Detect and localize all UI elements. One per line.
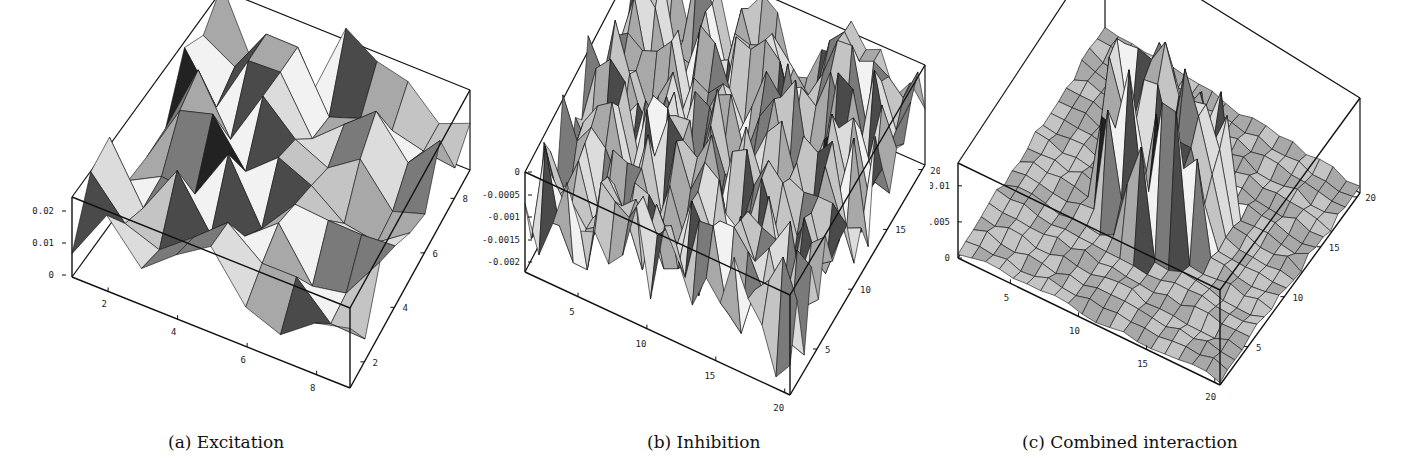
panel-inhibition: 510152051015200-0.0005-0.001-0.0015-0.00…	[470, 0, 940, 475]
svg-text:10: 10	[860, 285, 871, 295]
panel-excitation: 2468246800.010.02 (a) Excitation	[0, 0, 480, 475]
svg-text:0: 0	[945, 253, 950, 263]
svg-text:8: 8	[310, 383, 315, 393]
svg-text:0.01: 0.01	[930, 181, 950, 191]
svg-text:-0.0015: -0.0015	[482, 235, 520, 245]
svg-text:10: 10	[1292, 293, 1303, 303]
svg-text:6: 6	[432, 249, 437, 259]
svg-text:15: 15	[1329, 243, 1340, 253]
svg-text:4: 4	[171, 327, 176, 337]
svg-text:-0.0005: -0.0005	[482, 190, 520, 200]
svg-text:5: 5	[1004, 293, 1009, 303]
svg-text:15: 15	[895, 225, 906, 235]
svg-text:2: 2	[101, 299, 106, 309]
svg-text:4: 4	[402, 303, 407, 313]
svg-text:15: 15	[704, 371, 715, 381]
caption-inhibition: (b) Inhibition	[647, 432, 760, 452]
svg-text:-0.001: -0.001	[487, 212, 520, 222]
svg-text:0: 0	[515, 167, 520, 177]
svg-text:6: 6	[240, 355, 245, 365]
svg-text:5: 5	[1256, 343, 1261, 353]
combined-surface-plot: 5101520510152000.0050.01	[930, 0, 1401, 420]
caption-combined: (c) Combined interaction	[1022, 432, 1238, 452]
svg-text:0.02: 0.02	[32, 206, 54, 216]
svg-text:0.005: 0.005	[930, 217, 950, 227]
svg-text:10: 10	[635, 339, 646, 349]
panel-combined: 5101520510152000.0050.01 (c) Combined in…	[930, 0, 1401, 475]
svg-text:20: 20	[1205, 392, 1216, 402]
excitation-surface-plot: 2468246800.010.02	[0, 0, 480, 420]
svg-text:20: 20	[1365, 193, 1376, 203]
svg-text:20: 20	[773, 403, 784, 413]
svg-text:0.01: 0.01	[32, 238, 54, 248]
inhibition-surface-plot: 510152051015200-0.0005-0.001-0.0015-0.00…	[470, 0, 940, 420]
svg-text:15: 15	[1137, 359, 1148, 369]
svg-text:8: 8	[462, 194, 467, 204]
caption-excitation: (a) Excitation	[168, 432, 284, 452]
svg-text:0: 0	[49, 270, 54, 280]
svg-text:5: 5	[825, 345, 830, 355]
svg-text:-0.002: -0.002	[487, 257, 520, 267]
svg-text:10: 10	[1069, 326, 1080, 336]
svg-text:2: 2	[372, 358, 377, 368]
svg-text:5: 5	[569, 307, 574, 317]
